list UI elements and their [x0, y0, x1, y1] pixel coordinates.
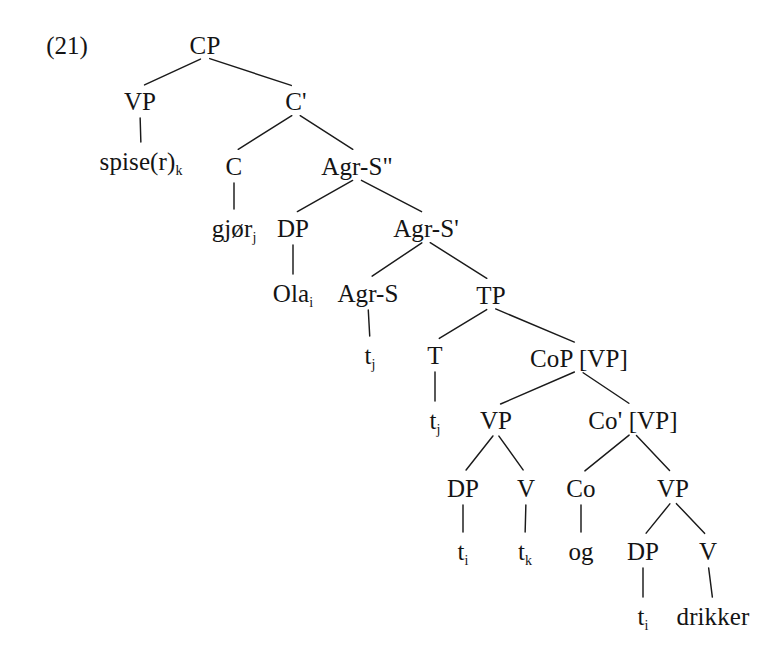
tree-branch [297, 180, 352, 211]
tree-node-cobar: Co' [VP] [588, 408, 677, 433]
tree-branch [361, 180, 421, 211]
tree-branch [501, 372, 575, 404]
tree-node-ti1: ti [458, 539, 469, 564]
tree-node-subscript-tk: k [525, 552, 532, 567]
tree-node-dp2: DP [447, 476, 479, 501]
tree-node-c: C [226, 154, 243, 179]
tree-node-drikker: drikker [677, 604, 750, 629]
tree-node-og: og [568, 539, 593, 564]
tree-node-agrsbar: Agr-S' [393, 216, 459, 241]
tree-branch [499, 436, 523, 470]
tree-node-cbar: C' [285, 89, 306, 114]
tree-node-ti2: ti [638, 604, 649, 629]
tree-node-co: Co [566, 476, 595, 501]
tree-node-cp: CP [190, 33, 221, 58]
tree-node-subscript-gjor: j [252, 229, 256, 244]
tree-branch [709, 568, 713, 597]
tree-node-tp: TP [476, 283, 505, 308]
tree-node-ola: Olai [273, 281, 313, 306]
tree-branch [300, 116, 353, 150]
tree-branch [646, 504, 670, 533]
tree-branch [496, 309, 575, 342]
tree-branch [636, 436, 669, 471]
tree-node-vp3: VP [657, 476, 689, 501]
tree-branch [368, 310, 369, 336]
tree-node-gjor: gjørj [212, 216, 257, 241]
tree-node-tj1: tj [365, 343, 376, 368]
tree-branch [430, 243, 487, 279]
tree-node-tk: tk [518, 539, 532, 564]
tree-node-subscript-ti2: i [645, 617, 649, 632]
tree-branch [145, 59, 201, 85]
tree-node-agrs: Agr-S [337, 281, 398, 306]
tree-node-subscript-ti1: i [465, 552, 469, 567]
tree-node-v2: V [699, 539, 717, 564]
syntax-tree-figure: (21) CPVPC'spise(r)kCAgr-S"gjørjDPAgr-S'… [0, 0, 777, 658]
tree-branch [238, 116, 292, 150]
tree-node-agrs2: Agr-S" [321, 154, 392, 179]
tree-branch [140, 118, 141, 142]
tree-node-cop: CoP [VP] [530, 346, 628, 371]
tree-node-vp2: VP [480, 408, 512, 433]
tree-node-v1: V [517, 476, 535, 501]
tree-branch [439, 310, 486, 339]
tree-node-dp3: DP [627, 539, 659, 564]
tree-node-subscript-ola: i [309, 294, 313, 309]
tree-branch [585, 435, 629, 471]
tree-branch [466, 436, 493, 470]
tree-node-subscript-tj1: j [372, 356, 376, 371]
tree-node-tj2: tj [430, 408, 441, 433]
tree-node-t: T [427, 343, 442, 368]
tree-branch [372, 243, 422, 276]
tree-branch [525, 505, 526, 532]
tree-node-spise: spise(r)k [100, 149, 183, 174]
tree-branch [583, 373, 629, 403]
tree-node-vp1: VP [124, 89, 156, 114]
tree-branch [210, 59, 292, 86]
tree-node-subscript-spise: k [175, 162, 182, 177]
tree-branch-lines [0, 0, 777, 658]
tree-node-dp1: DP [277, 216, 309, 241]
tree-branch [676, 504, 704, 534]
tree-node-subscript-tj2: j [437, 421, 441, 436]
